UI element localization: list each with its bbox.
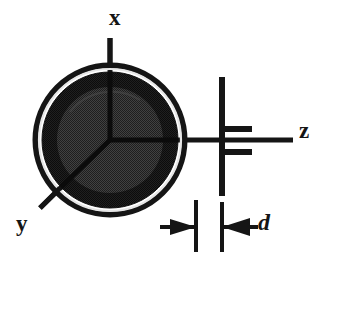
barrier-group — [220, 77, 252, 196]
z-axis-label: z — [299, 119, 309, 142]
dimension-marker-d — [160, 200, 258, 252]
y-axis-tail — [40, 188, 60, 208]
x-axis-label: x — [109, 6, 121, 29]
dimension-label-d: d — [258, 210, 270, 234]
figure-root: x y z d — [0, 0, 339, 325]
dimension-left-arrow-head — [170, 219, 196, 235]
dimension-right-arrow-head — [222, 218, 250, 236]
y-axis-label: y — [16, 212, 28, 235]
diagram-canvas — [0, 0, 339, 325]
